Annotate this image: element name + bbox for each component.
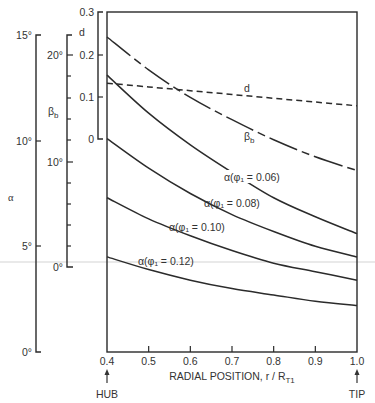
alpha-tick-5: 5° [22,240,32,252]
hub-label: HUB [96,388,118,400]
curve-d [107,83,357,106]
d-tick-0.3: 0.3 [79,6,94,18]
curve-beta-b [107,37,357,171]
x-tick-label: 0.4 [100,355,115,367]
x-tick-label: 0.8 [266,355,281,367]
alpha-axis: 15° 10° 5° 0° α [8,29,41,358]
label-alpha-0.06: α(φ₁ = 0.06) [224,171,280,183]
x-tick-label: 0.9 [308,355,323,367]
label-alpha-0.08: α(φ₁ = 0.08) [204,197,260,209]
tip-label: TIP [349,388,365,400]
x-tick-label: 0.6 [183,355,198,367]
arrow-up-icon [105,369,110,375]
beta-tick-0: 0° [53,261,63,273]
d-tick-0.2: 0.2 [79,49,94,61]
beta-axis-label: βb [48,105,59,120]
label-alpha-0.10: α(φ₁ = 0.10) [169,221,225,233]
chart: 15° 10° 5° 0° α 20° 10° 0° βb 0.3 0.2 0.… [0,0,375,403]
d-tick-0: 0 [88,133,94,145]
hub-marker: HUB [96,369,118,400]
label-beta-b: βb [244,130,255,145]
alpha-tick-0: 0° [22,346,32,358]
x-axis-ticks: 0.40.50.60.70.80.91.0 [100,346,365,367]
tip-marker: TIP [349,369,365,400]
label-d: d [244,82,250,94]
alpha-tick-10: 10° [16,135,32,147]
d-axis-label: d [79,26,85,38]
x-tick-label: 1.0 [350,355,365,367]
d-tick-0.1: 0.1 [79,91,94,103]
alpha-axis-label: α [8,192,14,203]
x-axis-label: RADIAL POSITION, r / RT1 [169,370,295,385]
alpha-tick-15: 15° [16,29,32,41]
x-tick-label: 0.5 [141,355,156,367]
beta-tick-20: 20° [47,49,63,61]
curve-alpha-phi-0.06 [107,75,357,234]
x-tick-label: 0.7 [225,355,240,367]
label-alpha-0.12: α(φ₁ = 0.12) [138,255,194,267]
d-axis: 0.3 0.2 0.1 0 d [79,6,103,145]
beta-axis: 20° 10° 0° βb [47,35,73,273]
beta-tick-10: 10° [47,156,63,168]
arrow-up-icon [355,369,360,375]
